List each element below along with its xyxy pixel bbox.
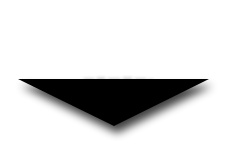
triangle-shape (18, 79, 209, 126)
down-triangle-arrow-icon (0, 0, 241, 168)
canvas (0, 0, 241, 168)
